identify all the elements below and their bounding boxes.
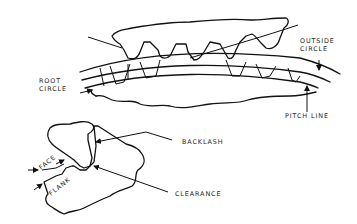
lower-gear-teeth	[100, 60, 300, 86]
label-pitch-line: PITCH LINE	[285, 113, 329, 121]
label-clearance: CLEARANCE	[175, 191, 221, 199]
label-outside-circle: OUTSIDE CIRCLE	[300, 38, 335, 53]
outside-circle-arc	[80, 54, 340, 74]
label-root-circle: ROOT CIRCLE	[39, 78, 67, 93]
lower-gear-body	[96, 92, 316, 108]
label-backlash: BACKLASH	[182, 139, 223, 147]
pitch-line-arc	[82, 65, 330, 82]
root-circle-arc	[85, 74, 318, 88]
gear-diagram: OUTSIDE CIRCLE ROOT CIRCLE PITCH LINE BA…	[0, 0, 357, 224]
